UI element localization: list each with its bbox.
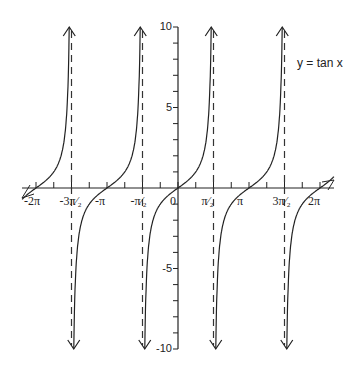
x-tick-label: 3π⁄₂ <box>272 194 290 209</box>
x-tick-label: π <box>237 194 243 209</box>
tan-branch <box>22 28 69 200</box>
x-tick-label: -π⁄₂ <box>130 194 146 209</box>
chart-title: y = tan x <box>297 56 343 70</box>
x-tick-label: -π <box>95 194 105 209</box>
y-tick-label: -5 <box>162 262 172 274</box>
x-tick-label: -2π <box>24 194 40 209</box>
x-tick-label: π⁄₂ <box>202 194 214 209</box>
y-tick-label: 10 <box>160 20 172 32</box>
x-tick-label: -3π⁄₂ <box>60 194 82 209</box>
x-tick-label: 2π <box>308 194 320 209</box>
y-tick-label: 5 <box>166 101 172 113</box>
y-tick-label: -10 <box>156 342 172 354</box>
x-tick-label: 0 <box>170 194 176 209</box>
